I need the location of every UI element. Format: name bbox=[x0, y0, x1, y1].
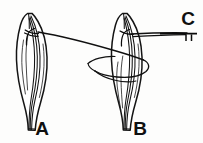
label-a: A bbox=[35, 118, 49, 139]
label-b: B bbox=[133, 118, 147, 139]
label-c: C bbox=[181, 8, 195, 29]
figure-canvas: A B C bbox=[0, 0, 203, 143]
thread-b-to-c-second bbox=[133, 35, 186, 37]
muscle-a-group bbox=[16, 13, 47, 130]
thread-loop-left-end bbox=[88, 64, 95, 72]
diagram-svg: A B C bbox=[0, 0, 203, 143]
